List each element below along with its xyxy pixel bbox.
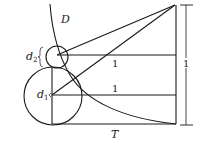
label-lower-horizontal: 1 (112, 83, 118, 94)
label-d1: d1 (37, 88, 49, 102)
label-t-line: T (111, 128, 120, 141)
label-d1-sub: 1 (44, 94, 48, 102)
label-d2-main: d (26, 50, 33, 63)
large-circle-d1 (24, 67, 82, 125)
d2-brace (38, 47, 43, 67)
small-circle-d2 (46, 46, 68, 68)
d1-tick (49, 93, 51, 97)
geometry-diagram: D d2 d1 1 1 1 T (0, 0, 204, 145)
label-upper-horizontal: 1 (112, 58, 118, 69)
label-d2: d2 (26, 50, 38, 64)
label-height-dimension: 1 (183, 58, 189, 69)
label-d-curve: D (60, 13, 70, 26)
large-center-to-apex-line (52, 5, 175, 95)
label-d2-sub: 2 (33, 56, 37, 64)
label-d1-main: d (37, 88, 44, 101)
